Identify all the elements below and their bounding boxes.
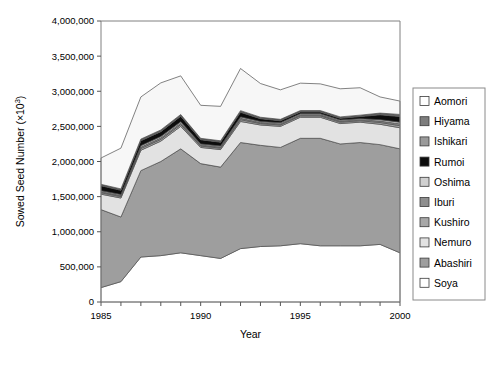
legend-swatch-ishikari <box>420 137 429 146</box>
legend-swatch-aomori <box>420 97 429 106</box>
legend-item[interactable]: Ishikari <box>420 135 467 147</box>
legend-swatch-hiyama <box>420 117 429 126</box>
y-tick-label: 2,000,000 <box>52 156 94 167</box>
plot-area <box>101 68 400 302</box>
legend-label-abashiri: Abashiri <box>434 257 472 269</box>
y-tick-label: 1,500,000 <box>52 191 94 202</box>
legend-label-ishikari: Ishikari <box>434 135 467 147</box>
legend-swatch-kushiro <box>420 218 429 227</box>
legend-item[interactable]: Iburi <box>420 196 454 208</box>
legend-item[interactable]: Hiyama <box>420 115 470 127</box>
y-axis-title-text: Sowed Seed Number (×103) <box>13 96 27 228</box>
legend-swatch-nemuro <box>420 238 429 247</box>
legend-item[interactable]: Nemuro <box>420 236 472 248</box>
legend-label-kushiro: Kushiro <box>434 216 470 228</box>
legend-item[interactable]: Abashiri <box>420 257 472 269</box>
legend-label-soya: Soya <box>434 277 458 289</box>
legend-item[interactable]: Aomori <box>420 95 467 107</box>
x-tick-label: 1990 <box>190 310 211 321</box>
chart-figure: 0500,0001,000,0001,500,0002,000,0002,500… <box>0 0 495 371</box>
x-tick-label: 2000 <box>389 310 410 321</box>
y-tick-label: 3,500,000 <box>52 51 94 62</box>
legend-item[interactable]: Kushiro <box>420 216 470 228</box>
legend-item[interactable]: Soya <box>420 277 458 289</box>
legend-item[interactable]: Oshima <box>420 176 470 188</box>
legend-label-rumoi: Rumoi <box>434 156 464 168</box>
x-tick-label: 1995 <box>290 310 311 321</box>
legend-swatch-rumoi <box>420 157 429 166</box>
legend-swatch-soya <box>420 278 429 287</box>
x-axis-title: Year <box>240 328 262 340</box>
legend-label-iburi: Iburi <box>434 196 454 208</box>
legend-swatch-abashiri <box>420 258 429 267</box>
y-tick-label: 2,500,000 <box>52 121 94 132</box>
y-tick-label: 3,000,000 <box>52 86 94 97</box>
y-axis-title: Sowed Seed Number (×103) <box>13 96 27 228</box>
legend: AomoriHiyamaIshikariRumoiOshimaIburiKush… <box>413 88 485 300</box>
y-tick-label: 4,000,000 <box>52 15 94 26</box>
x-tick-label: 1985 <box>90 310 111 321</box>
legend-label-nemuro: Nemuro <box>434 236 472 248</box>
y-tick-label: 1,000,000 <box>52 226 94 237</box>
area-chart-svg: 0500,0001,000,0001,500,0002,000,0002,500… <box>0 0 495 371</box>
legend-item[interactable]: Rumoi <box>420 156 464 168</box>
legend-swatch-iburi <box>420 198 429 207</box>
y-tick-label: 500,000 <box>60 261 94 272</box>
legend-label-oshima: Oshima <box>434 176 470 188</box>
legend-label-hiyama: Hiyama <box>434 115 470 127</box>
y-tick-label: 0 <box>89 296 94 307</box>
legend-label-aomori: Aomori <box>434 95 467 107</box>
legend-swatch-oshima <box>420 177 429 186</box>
